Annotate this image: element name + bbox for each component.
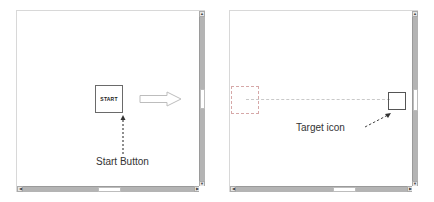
scroll-left-button[interactable]: ◀ [17,186,23,192]
horizontal-scrollbar[interactable] [17,186,200,192]
scroll-up-button[interactable]: ▲ [199,11,205,17]
original-position-ghost [231,86,259,114]
horizontal-scrollbar-thumb[interactable] [333,187,356,192]
start-button[interactable]: START [95,85,123,113]
scrollbar-corner [412,186,418,192]
scroll-left-button[interactable]: ◀ [230,186,236,192]
right-window: ▲ ▼ ◀ ▶ Target icon [229,10,418,192]
dotted-arrow-icon [120,115,126,155]
vertical-scrollbar[interactable] [412,11,418,187]
vertical-scrollbar-thumb[interactable] [413,89,418,111]
start-button-annotation: Start Button [96,156,149,167]
vertical-scrollbar[interactable] [199,11,205,187]
horizontal-scrollbar-thumb[interactable] [98,187,121,192]
vertical-scrollbar-thumb[interactable] [200,89,205,109]
start-button-label: START [100,96,117,102]
right-arrow-icon [139,91,183,107]
target-icon-annotation: Target icon [296,122,345,133]
target-icon[interactable] [388,92,406,110]
horizontal-scrollbar[interactable] [230,186,413,192]
movement-path-line [246,99,390,100]
scrollbar-corner [199,186,205,192]
dashed-arrow-icon [364,111,392,129]
scroll-up-button[interactable]: ▲ [412,11,418,17]
